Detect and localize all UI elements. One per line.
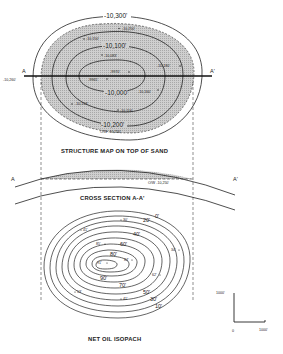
isopach-contour-label: 80' (110, 251, 117, 257)
isopach-well-label: 91' (97, 261, 102, 265)
well-label: -10,083' (104, 54, 117, 58)
isopach-well-label: 34' (171, 248, 176, 252)
isopach-contour-label: 50' (143, 289, 150, 295)
well-label: -10,180' (157, 64, 170, 68)
contour-label-10000: -10,000' (105, 89, 128, 96)
well-label: -10,150' (86, 37, 99, 41)
well-label: -10,160' (138, 90, 151, 94)
isopach-well-label: 62' (152, 273, 157, 277)
well-label: -9970' (110, 70, 120, 74)
contour-label-10200: -10,200' (101, 121, 124, 128)
scale-vertical-label: 1000' (216, 291, 225, 295)
scale-bar: 1000' 0 1000' (216, 291, 268, 333)
cross-section-owc-label: O/W -10,250' (148, 181, 169, 185)
oil-zone-shading (41, 23, 194, 133)
well-label: -10,153' (75, 102, 88, 106)
owc-label: O/W -10,250' (100, 130, 121, 134)
cross-section-title: CROSS SECTION A-A' (80, 195, 145, 201)
contour-label-10300: -10,300' (104, 12, 127, 19)
scale-origin-label: 0 (232, 329, 234, 333)
isopach-well-label: 53' (77, 290, 82, 294)
isopach-well-label: 30' (123, 218, 128, 222)
isopach-contour-label: 90' (100, 275, 107, 281)
section-end-label: A' (210, 68, 215, 74)
isopach-contour-label: 70' (119, 282, 126, 288)
isopach-contour-label: 60' (120, 241, 127, 247)
contour-label-10100: -10,100' (103, 42, 126, 49)
well-label: -10,250' (122, 27, 135, 31)
isopach-contour-label: 20' (143, 217, 150, 223)
cross-section-start-label: A (11, 176, 15, 182)
net-oil-isopach (44, 211, 190, 318)
isopach-contour-label: 10' (155, 303, 162, 309)
scale-horizontal-label: 1000' (259, 328, 268, 332)
well-label: -10,116' (120, 109, 133, 113)
isopach-well-label: 41' (123, 297, 128, 301)
isopach-well-label: 84' (124, 258, 129, 262)
section-start-label: A (22, 68, 26, 74)
diagram-canvas: A A' -10,300' -10,200' -10,100' -10,000'… (0, 0, 283, 354)
well-label: -10,260' (3, 78, 16, 82)
structure-map: A A' -10,300' -10,200' -10,100' -10,000'… (3, 12, 215, 155)
isopach-contour-label: 30' (150, 296, 157, 302)
isopach-well-label: 85' (96, 242, 101, 246)
isopach-well-label: 41' (83, 228, 88, 232)
well-label: -9965' (88, 78, 98, 82)
structure-map-title: STRUCTURE MAP ON TOP OF SAND (61, 148, 168, 154)
cross-section-end-label: A' (233, 176, 238, 182)
isopach-title: NET OIL ISOPACH (88, 336, 141, 342)
isopach-contour-label: 0' (155, 213, 159, 219)
isopach-contour-label: 40' (133, 231, 140, 237)
cross-section: A A' O/W -10,250' CROSS SECTION A-A' (11, 170, 238, 211)
